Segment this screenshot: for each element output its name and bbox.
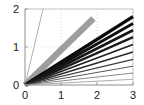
x-tick-label: 3 <box>130 90 136 101</box>
data-line-black-4 <box>25 37 133 85</box>
x-tick-label: 0 <box>22 90 28 101</box>
x-tick-label: 1 <box>58 90 64 101</box>
y-tick-label: 1 <box>6 42 19 53</box>
y-tick-label: 0 <box>6 80 19 91</box>
x-tick-label: 2 <box>94 90 100 101</box>
chart-figure: 0123012 <box>0 0 144 105</box>
y-tick-label: 2 <box>6 4 19 15</box>
